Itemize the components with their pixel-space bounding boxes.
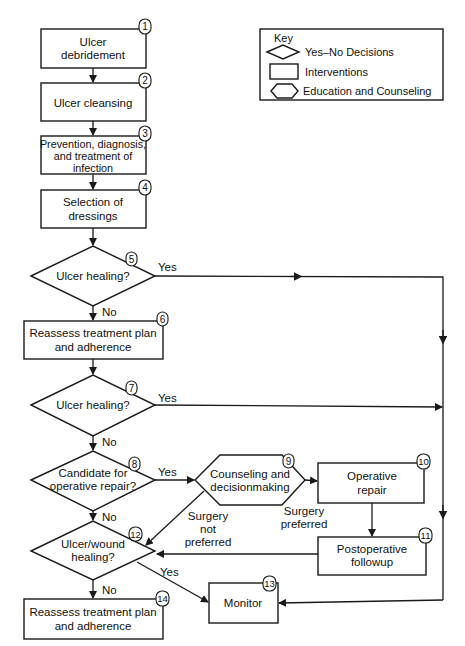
node-5-number: 5: [129, 254, 135, 265]
edge-label-7-no: No: [102, 436, 117, 448]
legend-rectangle-icon: [270, 64, 298, 79]
node-3-line-2: and treatment of: [54, 150, 134, 162]
node-2-ulcer-cleansing: Ulcer cleansing 2: [41, 73, 151, 121]
legend-title: Key: [274, 32, 293, 44]
node-14-number: 14: [157, 593, 168, 604]
legend-label-decisions: Yes–No Decisions: [305, 46, 394, 58]
node-9-counseling-decisionmaking: Counseling and decisionmaking 9: [195, 454, 305, 505]
arrow-9-10-preferred: [305, 480, 317, 481]
edge-label-preferred-2: preferred: [281, 518, 328, 530]
edge-label-not-preferred-3: preferred: [185, 536, 232, 548]
node-2-number: 2: [142, 75, 148, 86]
node-13-monitor: Monitor 13: [209, 576, 278, 623]
node-3-number: 3: [142, 128, 148, 139]
node-14-line-2: and adherence: [55, 620, 132, 632]
node-12-line-2: healing?: [71, 551, 114, 563]
node-7-line-1: Ulcer healing?: [56, 399, 130, 411]
node-1-ulcer-debridement: Ulcer debridement 1: [41, 19, 151, 68]
node-6-number: 6: [160, 314, 166, 325]
node-10-line-1: Operative: [347, 470, 397, 482]
edge-label-5-yes: Yes: [158, 261, 177, 273]
node-14-reassess-treatment: Reassess treatment plan and adherence 14: [24, 591, 169, 639]
node-4-number: 4: [142, 182, 148, 193]
edge-label-preferred-1: Surgery: [284, 505, 325, 517]
node-10-number: 10: [418, 456, 429, 467]
node-4-selection-of-dressings: Selection of dressings 4: [41, 180, 151, 228]
node-8-decision-candidate-operative: Candidate for operative repair? 8: [31, 451, 155, 511]
node-6-reassess-treatment: Reassess treatment plan and adherence 6: [24, 312, 168, 359]
node-1-number: 1: [142, 21, 148, 32]
node-8-line-1: Candidate for: [58, 467, 127, 479]
node-6-line-1: Reassess treatment plan: [29, 327, 156, 339]
arrow-7-yes: [155, 405, 442, 407]
node-5-decision-ulcer-healing: Ulcer healing? 5: [31, 246, 155, 306]
node-13-line-1: Monitor: [224, 597, 263, 609]
edge-label-8-yes: Yes: [158, 466, 177, 478]
node-7-number: 7: [129, 383, 135, 394]
node-1-line-2: debridement: [61, 49, 126, 61]
node-12-decision-ulcer-wound-healing: Ulcer/wound healing? 12: [31, 521, 155, 580]
node-13-number: 13: [264, 578, 275, 589]
edge-label-not-preferred-2: not: [200, 523, 217, 535]
node-1-line-1: Ulcer: [80, 36, 107, 48]
node-10-line-2: repair: [357, 484, 387, 496]
edge-label-12-no: No: [102, 584, 117, 596]
node-8-number: 8: [132, 459, 138, 470]
node-9-line-2: decisionmaking: [210, 481, 289, 493]
edge-label-7-yes: Yes: [158, 392, 177, 404]
node-5-line-1: Ulcer healing?: [56, 270, 130, 282]
node-3-line-1: Prevention, diagnosis,: [40, 138, 146, 150]
node-3-line-3: infection: [73, 162, 113, 174]
legend-label-education: Education and Counseling: [303, 85, 431, 97]
node-10-operative-repair: Operative repair 10: [318, 454, 430, 503]
node-7-decision-ulcer-healing: Ulcer healing? 7: [31, 375, 155, 436]
edge-label-8-no: No: [102, 511, 117, 523]
edge-label-not-preferred-1: Surgery: [188, 510, 229, 522]
node-11-line-1: Postoperative: [337, 543, 407, 555]
flowchart: Key Yes–No Decisions Interventions Educa…: [0, 0, 465, 646]
node-14-line-1: Reassess treatment plan: [29, 606, 156, 618]
node-9-number: 9: [286, 456, 292, 467]
legend-hexagon-icon: [271, 84, 298, 98]
node-8-line-2: operative repair?: [50, 480, 136, 492]
node-11-line-2: followup: [351, 556, 393, 568]
node-6-line-2: and adherence: [55, 341, 132, 353]
node-9-line-1: Counseling and: [210, 468, 290, 480]
node-12-number: 12: [130, 529, 141, 540]
arrow-rail-to-monitor: [279, 600, 443, 603]
node-4-line-1: Selection of: [63, 196, 124, 208]
node-12-line-1: Ulcer/wound: [61, 538, 125, 550]
node-11-postoperative-followup: Postoperative followup 11: [318, 528, 432, 575]
edge-label-12-yes: Yes: [160, 566, 179, 578]
node-3-infection: Prevention, diagnosis, and treatment of …: [40, 126, 151, 174]
node-4-line-2: dressings: [68, 210, 117, 222]
edge-label-5-no: No: [102, 306, 117, 318]
node-11-number: 11: [421, 530, 431, 541]
legend-label-interventions: Interventions: [305, 66, 368, 78]
node-2-line-1: Ulcer cleansing: [54, 97, 133, 109]
legend: Key Yes–No Decisions Interventions Educa…: [260, 29, 443, 100]
